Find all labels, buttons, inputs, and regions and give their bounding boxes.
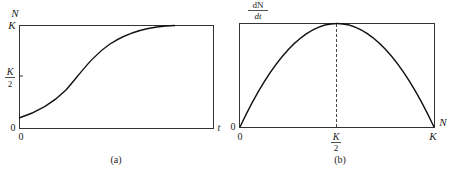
- y-axis-label-dn: dN: [253, 0, 265, 10]
- growth-rate-parabola: [240, 24, 434, 128]
- y-tick-k-half-den: 2: [8, 79, 13, 89]
- x-axis-label-n: N: [438, 116, 447, 128]
- x-tick-k-half-num: K: [332, 131, 341, 142]
- panel-a: N K K 2 0 0 t (a): [5, 7, 221, 166]
- y-tick-k-half-num: K: [6, 66, 15, 77]
- caption-a: (a): [110, 154, 121, 166]
- x-axis-label-t: t: [218, 122, 221, 133]
- caption-b: (b): [334, 154, 346, 166]
- y-tick-zero: 0: [231, 121, 236, 132]
- panel-a-frame: [20, 26, 214, 129]
- logistic-curve: [19, 26, 175, 119]
- panel-b: dN dt 0 0 K 2 K N (b): [231, 0, 448, 166]
- x-tick-zero: 0: [19, 131, 24, 142]
- y-tick-zero: 0: [11, 122, 16, 133]
- y-axis-label-dt: dt: [254, 11, 262, 21]
- y-tick-k: K: [7, 19, 16, 31]
- y-axis-label-n: N: [10, 7, 19, 19]
- figure: N K K 2 0 0 t (a) dN dt 0 0 K 2 K N (b): [0, 0, 450, 174]
- x-tick-k: K: [428, 130, 437, 142]
- x-tick-k-half-den: 2: [334, 143, 339, 153]
- x-tick-zero: 0: [238, 131, 243, 142]
